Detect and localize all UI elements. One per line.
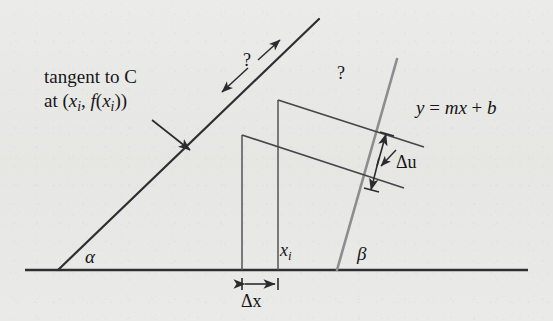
transversal-line-upper xyxy=(278,100,424,147)
equation-plus: + xyxy=(467,97,487,118)
line-y-equals-mx-plus-b xyxy=(337,59,397,270)
delta-u-label-leader xyxy=(381,150,396,166)
tangent-label-text: tangent to C xyxy=(44,66,137,87)
line-equation-label: y = mx + b xyxy=(416,97,497,119)
tangent-line-diagram: tangent to C at (xi, f(xi)) y = mx + b α… xyxy=(0,0,553,321)
delta-x-label: Δx xyxy=(241,291,262,312)
question-mark-transversal-segment: ? xyxy=(337,63,345,84)
question-measure-arrow-left xyxy=(222,68,248,92)
transversal-line-lower xyxy=(242,135,404,188)
tangent-line-label: tangent to C at (xi, f(xi)) xyxy=(44,66,137,115)
x-sub-i-label: xi xyxy=(280,240,292,263)
x-sub-i-base: x xyxy=(280,240,288,260)
tangent-label-leader-arrow xyxy=(152,120,190,150)
question-mark-tangent-segment: ? xyxy=(243,50,251,71)
delta-u-label: Δu xyxy=(396,152,417,173)
tangent-label-x1: x xyxy=(69,90,77,111)
equation-equals: = xyxy=(424,97,444,118)
equation-b: b xyxy=(487,97,497,118)
tangent-label-close: )) xyxy=(114,90,127,111)
question-measure-arrow-right xyxy=(258,40,280,60)
tangent-label-at: at ( xyxy=(44,90,69,111)
tangent-line xyxy=(58,19,319,270)
equation-m: m xyxy=(445,97,459,118)
x-sub-i-subscript: i xyxy=(288,248,292,263)
equation-x: x xyxy=(458,97,466,118)
diagram-canvas xyxy=(0,0,553,321)
tangent-label-comma: , xyxy=(81,90,91,111)
angle-alpha-label: α xyxy=(85,246,95,268)
angle-beta-label: β xyxy=(357,243,366,265)
tangent-label-x2: x xyxy=(102,90,110,111)
